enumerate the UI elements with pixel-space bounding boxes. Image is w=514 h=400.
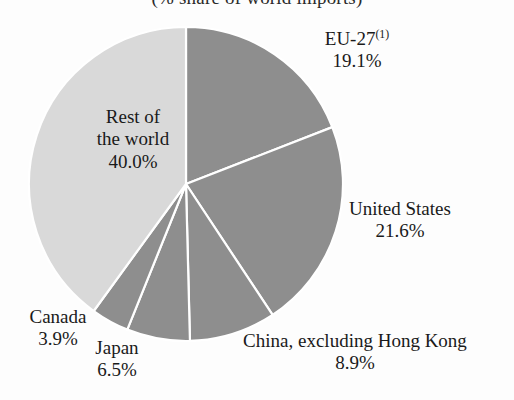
pie-slices-group xyxy=(29,27,343,341)
slice-label-rest-of-world-name-line2: the world xyxy=(58,128,208,150)
slice-label-canada-name: Canada xyxy=(0,306,118,328)
slice-label-china-value: 8.9% xyxy=(205,352,505,374)
slice-label-rest-of-world: Rest of the world 40.0% xyxy=(58,106,208,173)
slice-label-eu27-name: EU-27(1) xyxy=(262,28,452,50)
slice-label-united-states: United States 21.6% xyxy=(300,198,500,243)
slice-label-united-states-value: 21.6% xyxy=(300,220,500,242)
slice-label-eu27-superscript: (1) xyxy=(375,28,389,41)
slice-label-china: China, excluding Hong Kong 8.9% xyxy=(205,330,505,375)
slice-label-rest-of-world-name-line1: Rest of xyxy=(58,106,208,128)
slice-label-canada-value: 3.9% xyxy=(0,328,118,350)
slice-label-eu27: EU-27(1) 19.1% xyxy=(262,28,452,73)
slice-label-japan-value: 6.5% xyxy=(62,359,172,381)
slice-label-rest-of-world-value: 40.0% xyxy=(58,151,208,173)
slice-label-canada: Canada 3.9% xyxy=(0,306,118,351)
pie-chart-figure: (% share of world imports) EU-27(1) 19.1… xyxy=(0,0,514,400)
slice-label-eu27-value: 19.1% xyxy=(262,50,452,72)
slice-label-china-name: China, excluding Hong Kong xyxy=(205,330,505,352)
slice-label-united-states-name: United States xyxy=(300,198,500,220)
